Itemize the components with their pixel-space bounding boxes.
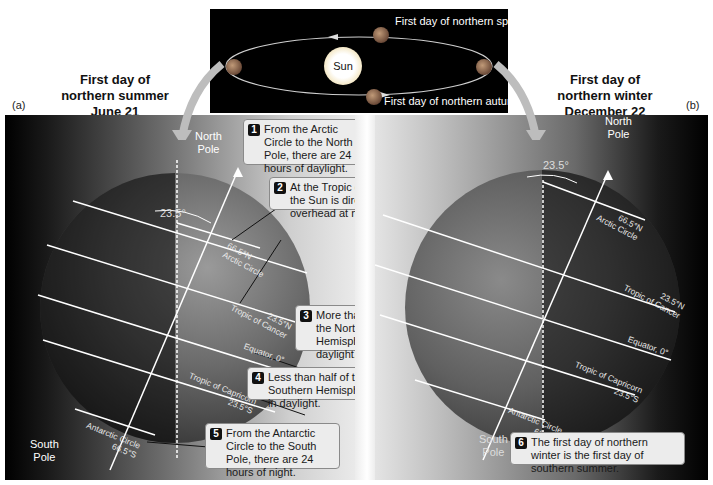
callout-number: 3 (300, 310, 312, 322)
callout-5: 5 From the Antarctic Circle to the South… (205, 423, 340, 469)
panel-b-december-solstice: North Pole 23.5° South Pole 66.5°NArctic… (375, 115, 708, 480)
panel-a-june-solstice: North Pole 23.5° South Pole 66.5°NArctic… (5, 115, 361, 480)
south-pole-label: South Pole (479, 433, 508, 459)
callout-number: 5 (210, 428, 222, 440)
callout-6: 6 The first day of northern winter is th… (510, 432, 685, 465)
tilt-angle-label: 23.5° (543, 159, 569, 172)
south-pole-line2: Pole (479, 446, 508, 459)
south-pole-label: South Pole (30, 438, 59, 464)
south-pole-line1: South (30, 438, 59, 451)
south-pole-line1: South (479, 433, 508, 446)
north-pole-line2: Pole (195, 143, 222, 156)
tilt-angle-label: 23.5° (160, 207, 186, 220)
south-pole-line2: Pole (30, 451, 59, 464)
callout-number: 4 (252, 372, 264, 384)
callout-number: 6 (515, 437, 527, 449)
callout-number: 2 (274, 182, 286, 194)
connector-arrows (0, 0, 713, 140)
